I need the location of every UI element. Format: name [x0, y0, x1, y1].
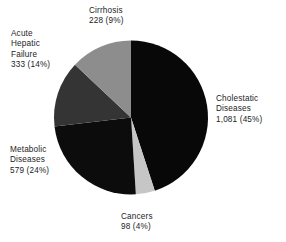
slice-label-cirrhosis-name: Cirrhosis [89, 6, 124, 16]
pie-slices [54, 41, 208, 195]
pie-chart-figure: Cirrhosis 228 (9%) Cholestatic Diseases … [0, 0, 286, 242]
slice-label-metabolic-diseases: Metabolic Diseases 579 (24%) [10, 145, 49, 176]
slice-label-cancers-name: Cancers [121, 212, 153, 222]
slice-label-cirrhosis: Cirrhosis 228 (9%) [89, 6, 124, 27]
slice-label-ahf-value: 333 (14%) [11, 60, 50, 70]
slice-label-cholestatic-name-line1: Cholestatic [216, 94, 262, 104]
slice-label-cirrhosis-value: 228 (9%) [89, 16, 124, 26]
slice-label-cancers: Cancers 98 (4%) [121, 212, 153, 233]
slice-label-acute-hepatic-failure: Acute Hepatic Failure 333 (14%) [11, 29, 50, 71]
slice-label-cholestatic-diseases: Cholestatic Diseases 1,081 (45%) [216, 94, 262, 125]
slice-label-metabolic-value: 579 (24%) [10, 166, 49, 176]
slice-label-ahf-name-line2: Hepatic [11, 39, 50, 49]
slice-label-ahf-name-line1: Acute [11, 29, 50, 39]
slice-label-cholestatic-value: 1,081 (45%) [216, 115, 262, 125]
slice-label-metabolic-name-line2: Diseases [10, 155, 49, 165]
slice-label-cancers-value: 98 (4%) [121, 222, 153, 232]
slice-label-cholestatic-name-line2: Diseases [216, 104, 262, 114]
slice-label-metabolic-name-line1: Metabolic [10, 145, 49, 155]
pie-slice-metabolic-diseases [55, 118, 136, 195]
slice-label-ahf-name-line3: Failure [11, 50, 50, 60]
